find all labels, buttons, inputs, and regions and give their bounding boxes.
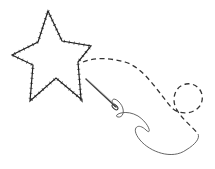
thread-loop bbox=[112, 99, 198, 154]
star-icon bbox=[12, 11, 91, 101]
sewing-illustration bbox=[0, 0, 215, 169]
dashed-stitch-path bbox=[83, 59, 202, 134]
